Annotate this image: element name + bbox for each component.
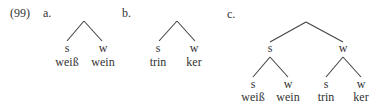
tree-c-rr-word: ker [353,91,368,103]
tree-b-right-label: w [190,42,199,54]
tree-b-left-word: trin [150,56,167,68]
tree-a-right-label: w [99,42,108,54]
tree-a-right-word: wein [91,56,114,68]
tree-b-right-word: ker [186,56,201,68]
tree-b-left-label: s [156,42,161,54]
tree-c-right-label: w [339,42,348,54]
example-number: (99) [10,7,30,19]
tree-a-left-word: weiß [55,56,78,68]
sub-example-c-label: c. [227,8,235,20]
tree-c-ll-label: s [251,78,256,90]
sub-example-b-label: b. [122,7,131,19]
tree-c-rl-word: trin [318,91,335,103]
tree-a-left-label: s [65,42,70,54]
sub-example-a-label: a. [43,7,51,19]
tree-c-lr-word: wein [276,91,299,103]
tree-c-rr-label: w [357,78,366,90]
tree-c-rl-label: s [324,78,329,90]
tree-c-ll-word: weiß [241,91,264,103]
tree-c-left-label: s [268,42,273,54]
tree-c-lr-label: w [284,78,293,90]
